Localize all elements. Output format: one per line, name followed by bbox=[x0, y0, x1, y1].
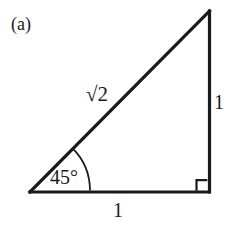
vertical-side-length-label: 1 bbox=[214, 92, 224, 112]
right-angle-marker-icon bbox=[197, 180, 208, 191]
triangle-diagram bbox=[0, 0, 239, 228]
hypotenuse-length-label: √2 bbox=[86, 84, 108, 105]
figure-container: (a) √2 1 1 45° bbox=[0, 0, 239, 228]
panel-label: (a) bbox=[11, 15, 31, 33]
triangle-hypotenuse bbox=[30, 11, 210, 192]
angle-measure-label: 45° bbox=[50, 167, 78, 187]
base-side-length-label: 1 bbox=[113, 200, 123, 220]
